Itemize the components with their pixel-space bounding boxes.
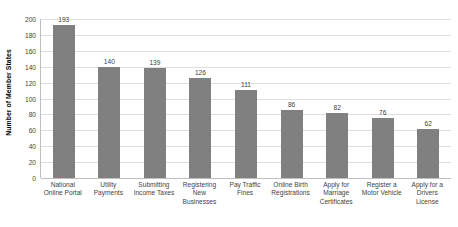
- bar-value-label: 193: [41, 16, 87, 23]
- x-axis-category-label-line: Income Taxes: [132, 189, 176, 197]
- x-axis-category-label: Register aMotor Vehicle: [359, 181, 405, 206]
- x-axis-category-label-line: Businesses: [178, 198, 222, 206]
- x-axis-category-label-line: Apply for: [314, 181, 358, 189]
- x-axis-category-label: Online BirthRegistrations: [268, 181, 314, 206]
- bar-slot: 62: [406, 19, 452, 178]
- x-axis-category-label-line: Certificates: [314, 198, 358, 206]
- bar-slot: 82: [314, 19, 360, 178]
- bar[interactable]: [144, 68, 166, 179]
- bar[interactable]: [189, 78, 211, 178]
- x-axis-category-label: Apply forMarriageCertificates: [313, 181, 359, 206]
- x-axis-category-label-line: Motor Vehicle: [360, 189, 404, 197]
- x-axis-category-label: UtilityPayments: [86, 181, 132, 206]
- bar-value-label: 140: [87, 58, 133, 65]
- x-axis-category-label-line: Payments: [87, 189, 131, 197]
- y-axis-tick-label: 140: [25, 63, 36, 70]
- bar[interactable]: [326, 113, 348, 178]
- x-axis-category-label: RegisteringNewBusinesses: [177, 181, 223, 206]
- bars-layer: 19314013912611186827662: [41, 19, 451, 178]
- y-axis-tick-label: 60: [29, 127, 36, 134]
- bar-value-label: 82: [314, 104, 360, 111]
- gridline: [41, 178, 451, 179]
- x-axis-category-label: Apply for aDriversLicense: [405, 181, 451, 206]
- bar-value-label: 76: [360, 109, 406, 116]
- x-axis-category-label-line: Pay Traffic: [223, 181, 267, 189]
- bar[interactable]: [372, 118, 394, 178]
- x-axis-category-label-line: Online Portal: [41, 189, 85, 197]
- bar-value-label: 139: [132, 59, 178, 66]
- bar[interactable]: [235, 90, 257, 178]
- bar-value-label: 111: [223, 81, 269, 88]
- x-axis-category-label-line: Fines: [223, 189, 267, 197]
- x-axis-category-labels: NationalOnline PortalUtilityPaymentsSubm…: [40, 181, 450, 206]
- y-axis-tick-label: 180: [25, 31, 36, 38]
- x-axis-category-label-line: Apply for a: [406, 181, 450, 189]
- bar-slot: 126: [178, 19, 224, 178]
- bar-slot: 193: [41, 19, 87, 178]
- x-axis-category-label-line: License: [406, 198, 450, 206]
- bar[interactable]: [417, 129, 439, 178]
- y-axis-tick-label: 0: [32, 175, 36, 182]
- x-axis-category-label-line: Marriage: [314, 189, 358, 197]
- x-axis-category-label-line: Registering: [178, 181, 222, 189]
- bar-slot: 139: [132, 19, 178, 178]
- bar-slot: 140: [87, 19, 133, 178]
- bar-slot: 86: [269, 19, 315, 178]
- bar[interactable]: [281, 110, 303, 178]
- y-axis-tick-label: 40: [29, 143, 36, 150]
- plot-area: 19314013912611186827662: [40, 19, 451, 178]
- y-axis-tick-label: 80: [29, 111, 36, 118]
- y-axis-tick-label: 100: [25, 95, 36, 102]
- x-axis-category-label-line: Registrations: [269, 189, 313, 197]
- bar-value-label: 126: [178, 69, 224, 76]
- x-axis-category-label: NationalOnline Portal: [40, 181, 86, 206]
- x-axis-category-label-line: Utility: [87, 181, 131, 189]
- y-axis-tick-label: 20: [29, 159, 36, 166]
- bar-chart: Number of Member States 2001801601401201…: [0, 0, 458, 227]
- bar-value-label: 86: [269, 101, 315, 108]
- y-axis-tick-label: 200: [25, 16, 36, 23]
- bar[interactable]: [53, 25, 75, 178]
- x-axis-category-label-line: New: [178, 189, 222, 197]
- x-axis-category-label-line: Register a: [360, 181, 404, 189]
- x-axis-category-label: Pay TrafficFines: [222, 181, 268, 206]
- y-axis-tick-label: 120: [25, 79, 36, 86]
- bar-slot: 76: [360, 19, 406, 178]
- bar-slot: 111: [223, 19, 269, 178]
- bar[interactable]: [98, 67, 120, 178]
- bar-value-label: 62: [406, 120, 452, 127]
- x-axis-category-label-line: Online Birth: [269, 181, 313, 189]
- y-axis-tick-labels: 200180160140120100806040200: [14, 19, 38, 178]
- y-axis-tick-label: 160: [25, 47, 36, 54]
- x-axis-category-label-line: Drivers: [406, 189, 450, 197]
- x-axis-category-label-line: Submitting: [132, 181, 176, 189]
- x-axis-category-label-line: National: [41, 181, 85, 189]
- y-axis-title-label: Number of Member States: [5, 49, 12, 136]
- x-axis-category-label: SubmittingIncome Taxes: [131, 181, 177, 206]
